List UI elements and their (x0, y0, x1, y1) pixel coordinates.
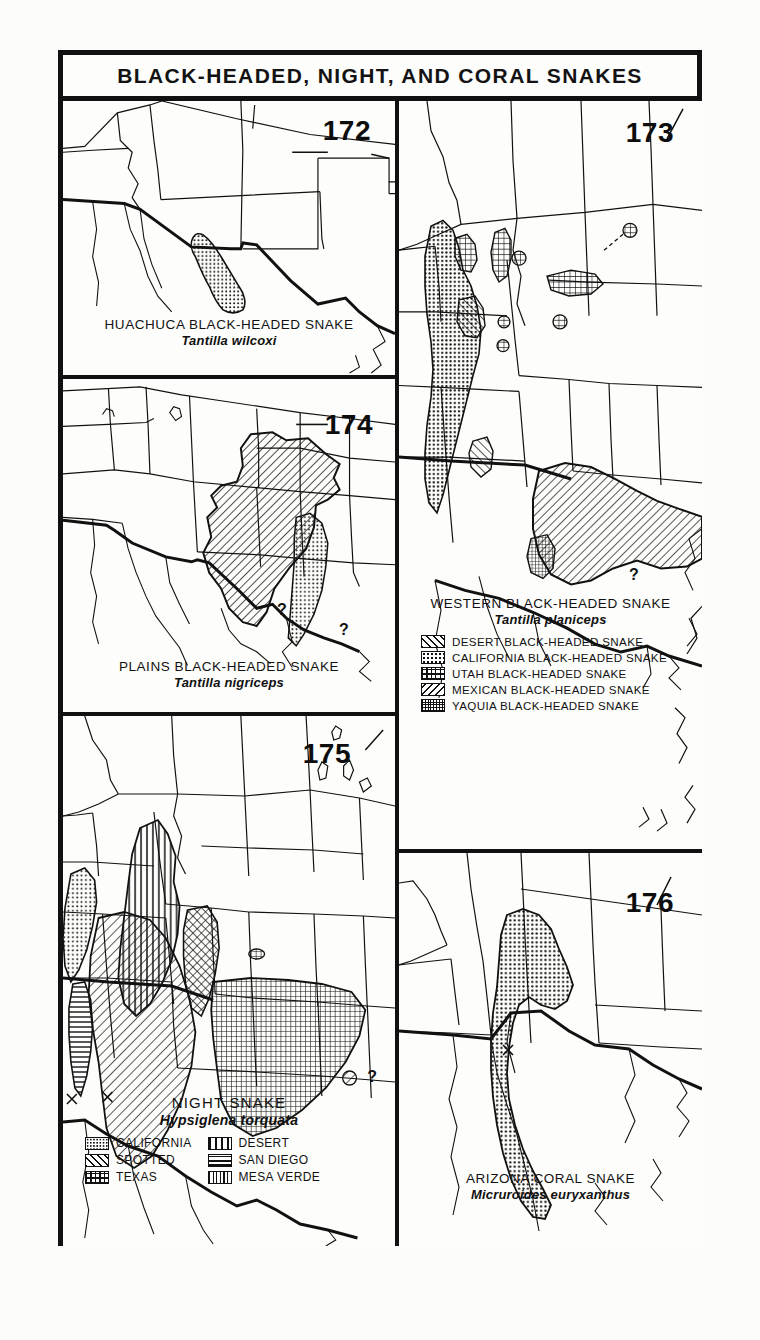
legend-175-col-left: CALIFORNIA SPOTTED TEXAS (85, 1136, 192, 1187)
legend-label-mexican-bh: MEXICAN BLACK-HEADED SNAKE (452, 683, 650, 696)
swatch-stipple-icon (85, 1137, 109, 1150)
legend-label-desert: DESERT (239, 1136, 290, 1150)
page-title: BLACK-HEADED, NIGHT, AND CORAL SNAKES (117, 64, 642, 88)
swatch-diagonal-backward-icon (421, 683, 445, 696)
range-mexican-b (469, 437, 493, 477)
legend-item-mexican-bh[interactable]: MEXICAN BLACK-HEADED SNAKE (421, 683, 667, 696)
legend-item-desert-bh[interactable]: DESERT BLACK-HEADED SNAKE (421, 635, 667, 648)
legend-173: DESERT BLACK-HEADED SNAKE CALIFORNIA BLA… (421, 635, 667, 715)
range-polygon (191, 234, 245, 313)
panel-number-176: 176 (626, 887, 674, 919)
query-marker-175: ? (367, 1068, 377, 1086)
legend-label-san-diego: SAN DIEGO (239, 1153, 309, 1167)
map-panel-175[interactable]: 175 ? NIGHT SNAKE Hypsiglena torquata CA… (63, 716, 399, 1246)
swatch-grid-icon (85, 1171, 109, 1184)
range-utah-c (547, 270, 603, 296)
swatch-grid-icon (421, 667, 445, 680)
swatch-diagonal-forward-icon (421, 635, 445, 648)
panel-number-172: 172 (323, 115, 371, 147)
range-texas (211, 978, 365, 1136)
range-polygon-176 (491, 909, 573, 1219)
map-panel-173[interactable]: 173 ? WESTERN BLACK-HEADED SNAKE Tantill… (399, 101, 702, 853)
range-polygon-stipple (288, 513, 328, 645)
legend-item-california-bh[interactable]: CALIFORNIA BLACK-HEADED SNAKE (421, 651, 667, 664)
query-marker-174-a: ? (277, 601, 287, 619)
panel-number-175: 175 (303, 738, 351, 770)
map-panel-174[interactable]: 174 ? ? PLAINS BLACK-HEADED SNAKE Tantil… (63, 379, 399, 716)
plate-frame: BLACK-HEADED, NIGHT, AND CORAL SNAKES (58, 50, 702, 1246)
range-san-diego (69, 982, 93, 1096)
query-marker-174-b: ? (339, 621, 349, 639)
legend-label-yaquia-bh: YAQUIA BLACK-HEADED SNAKE (452, 699, 639, 712)
legend-175-col-right: DESERT SAN DIEGO MESA VERDE (208, 1136, 321, 1187)
legend-label-california: CALIFORNIA (116, 1136, 192, 1150)
legend-label-utah-bh: UTAH BLACK-HEADED SNAKE (452, 667, 627, 680)
swatch-diagonal-forward-icon (85, 1154, 109, 1167)
range-spotted (89, 912, 196, 1168)
plate-title-band: BLACK-HEADED, NIGHT, AND CORAL SNAKES (63, 55, 697, 101)
map-173-graphic (399, 101, 702, 849)
legend-item-texas[interactable]: TEXAS (85, 1170, 192, 1184)
legend-item-yaquia-bh[interactable]: YAQUIA BLACK-HEADED SNAKE (421, 699, 667, 712)
legend-item-desert[interactable]: DESERT (208, 1136, 321, 1150)
legend-label-california-bh: CALIFORNIA BLACK-HEADED SNAKE (452, 651, 667, 664)
legend-item-california[interactable]: CALIFORNIA (85, 1136, 192, 1150)
legend-label-spotted: SPOTTED (116, 1153, 175, 1167)
swatch-vertical-fine-icon (208, 1171, 232, 1184)
legend-item-san-diego[interactable]: SAN DIEGO (208, 1153, 321, 1167)
swatch-horizontal-icon (208, 1154, 232, 1167)
map-panel-172[interactable]: 172 HUACHUCA BLACK-HEADED SNAKE Tantilla… (63, 101, 399, 379)
panel-number-173: 173 (626, 117, 674, 149)
legend-175: CALIFORNIA SPOTTED TEXAS DESERT (85, 1136, 320, 1187)
legend-item-utah-bh[interactable]: UTAH BLACK-HEADED SNAKE (421, 667, 667, 680)
legend-item-mesa-verde[interactable]: MESA VERDE (208, 1170, 321, 1184)
legend-label-desert-bh: DESERT BLACK-HEADED SNAKE (452, 635, 643, 648)
swatch-vertical-icon (208, 1137, 232, 1150)
map-panel-176[interactable]: 176 ARIZONA CORAL SNAKE Micruroides eury… (399, 853, 702, 1246)
swatch-stipple-icon (421, 651, 445, 664)
query-marker-173: ? (629, 566, 639, 584)
swatch-grid-fine-icon (421, 699, 445, 712)
panel-number-174: 174 (325, 409, 373, 441)
range-utah-a (491, 228, 511, 282)
range-desert-bh (533, 463, 702, 584)
legend-item-spotted[interactable]: SPOTTED (85, 1153, 192, 1167)
legend-label-mesa-verde: MESA VERDE (239, 1170, 321, 1184)
legend-label-texas: TEXAS (116, 1170, 157, 1184)
